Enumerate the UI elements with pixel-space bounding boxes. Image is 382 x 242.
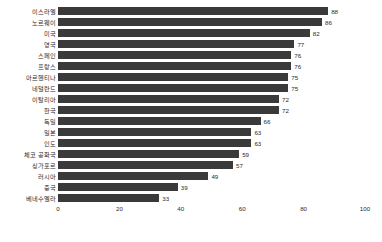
x-tick-label: 40 [177,206,184,212]
bar-row: 프랑스76 [0,61,382,72]
category-label: 러시아 [38,173,56,179]
bar-value-label: 33 [162,195,169,201]
bar [58,161,233,169]
bar-value-label: 75 [291,85,298,91]
bar-row: 영국77 [0,39,382,50]
bar-row: 한국72 [0,105,382,116]
bar-row: 베네수엘라33 [0,193,382,204]
bar [58,194,159,202]
category-label: 이탈리아 [32,96,56,102]
bar-row: 인도63 [0,138,382,149]
bar [58,117,261,125]
bar-value-label: 63 [254,129,261,135]
category-label: 한국 [44,107,56,113]
bar-value-label: 57 [236,162,243,168]
plot-area: 이스라엘88노르웨이86미국82영국77스페인76프랑스76아르헨티나75네덜란… [0,0,382,204]
bar [58,73,288,81]
bar [58,62,291,70]
bar [58,172,208,180]
category-label: 체코 공화국 [24,151,56,157]
bar-value-label: 86 [325,19,332,25]
bar-value-label: 63 [254,140,261,146]
bar-value-label: 82 [313,30,320,36]
bar-row: 미국82 [0,28,382,39]
category-label: 독일 [44,118,56,124]
category-label: 이스라엘 [32,8,56,14]
bar-value-label: 76 [294,52,301,58]
category-label: 노르웨이 [32,19,56,25]
bar-value-label: 66 [264,118,271,124]
category-label: 싱가포르 [32,162,56,168]
bar-value-label: 72 [282,96,289,102]
bar-value-label: 59 [242,151,249,157]
bar-chart: 이스라엘88노르웨이86미국82영국77스페인76프랑스76아르헨티나75네덜란… [0,0,382,242]
bar [58,139,251,147]
bar-row: 독일66 [0,116,382,127]
bar [58,18,322,26]
category-label: 인도 [44,140,56,146]
bar-value-label: 49 [211,173,218,179]
bar [58,7,328,15]
bar-row: 네덜란드75 [0,83,382,94]
x-axis: 020406080100 [0,206,382,222]
bar [58,183,178,191]
bar [58,106,279,114]
bar-row: 이스라엘88 [0,6,382,17]
bar-value-label: 77 [297,41,304,47]
bar-value-label: 72 [282,107,289,113]
bar [58,95,279,103]
bar [58,150,239,158]
category-label: 스페인 [38,52,56,58]
x-tick-label: 80 [300,206,307,212]
bar-row: 스페인76 [0,50,382,61]
category-label: 프랑스 [38,63,56,69]
bar-value-label: 88 [331,8,338,14]
bar-row: 아르헨티나75 [0,72,382,83]
bar-row: 일본63 [0,127,382,138]
x-tick-label: 0 [56,206,59,212]
bar [58,29,310,37]
bar [58,84,288,92]
category-label: 베네수엘라 [26,195,56,201]
bar [58,40,294,48]
bar-row: 싱가포르57 [0,160,382,171]
category-label: 일본 [44,129,56,135]
category-label: 중국 [44,184,56,190]
bar-row: 러시아49 [0,171,382,182]
bar [58,51,291,59]
bar-row: 체코 공화국59 [0,149,382,160]
category-label: 미국 [44,30,56,36]
bar-row: 이탈리아72 [0,94,382,105]
bar-row: 노르웨이86 [0,17,382,28]
bar-value-label: 75 [291,74,298,80]
bar-value-label: 76 [294,63,301,69]
bar-value-label: 39 [181,184,188,190]
category-label: 영국 [44,41,56,47]
bar-row: 중국39 [0,182,382,193]
category-label: 네덜란드 [32,85,56,91]
bar [58,128,251,136]
x-tick-label: 20 [116,206,123,212]
x-tick-label: 60 [239,206,246,212]
category-label: 아르헨티나 [26,74,56,80]
x-tick-label: 100 [360,206,370,212]
